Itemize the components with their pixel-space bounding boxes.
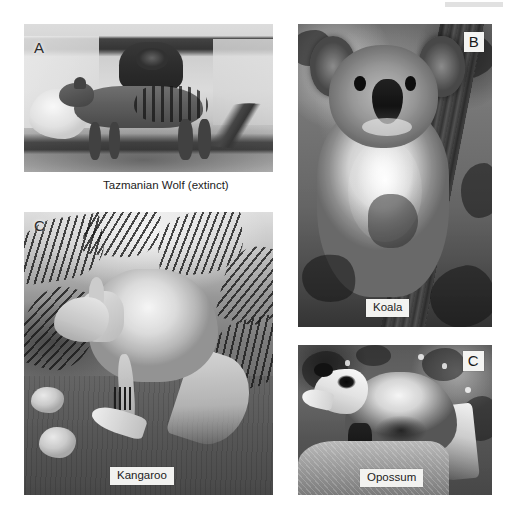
foliage-shape <box>426 262 492 327</box>
koala-eye-left <box>354 76 366 91</box>
panel-d-opossum: C Opossum <box>298 345 492 495</box>
panel-letter-c: C <box>34 218 45 233</box>
thylacine-hindleg-far <box>198 119 210 159</box>
photo-koala <box>298 24 492 327</box>
caption-tazmanian-wolf: Tazmanian Wolf (extinct) <box>103 180 229 192</box>
scan-artifact <box>445 2 503 7</box>
photo-kangaroo <box>24 212 273 495</box>
opossum-ear <box>314 363 333 377</box>
foliage-shape <box>356 345 391 366</box>
caption-opossum: Opossum <box>360 469 423 488</box>
thylacine-foreleg-near <box>89 122 101 160</box>
second-thylacine-face <box>136 48 168 70</box>
highlight-speck <box>465 387 471 393</box>
photo-tazmanian-wolf <box>24 24 273 172</box>
panel-letter-a: A <box>34 40 44 55</box>
panel-c-kangaroo: C Kangaroo <box>24 212 273 495</box>
panel-b-koala: B Koala <box>298 24 492 327</box>
koala-eye-right <box>405 76 417 91</box>
panel-letter-d: C <box>463 351 484 371</box>
kangaroo-claws <box>114 387 134 410</box>
panel-letter-b: B <box>464 32 484 52</box>
caption-kangaroo: Kangaroo <box>110 467 174 486</box>
rock-shape <box>31 387 63 412</box>
thylacine-foreleg-far <box>109 122 120 159</box>
thylacine-hindleg-near <box>178 119 193 160</box>
foliage-shape <box>461 163 492 218</box>
opossum-eye <box>337 375 356 389</box>
figure-plate: A Tazmanian Wolf (extinct) B Koala <box>0 0 515 528</box>
koala-arm <box>368 194 418 249</box>
thylacine-ear <box>74 77 86 89</box>
caption-koala: Koala <box>366 299 409 318</box>
panel-a-tazmanian-wolf <box>24 24 273 172</box>
thylacine-stripes <box>134 86 209 122</box>
highlight-speck <box>345 360 351 366</box>
fern-frond <box>81 212 161 261</box>
